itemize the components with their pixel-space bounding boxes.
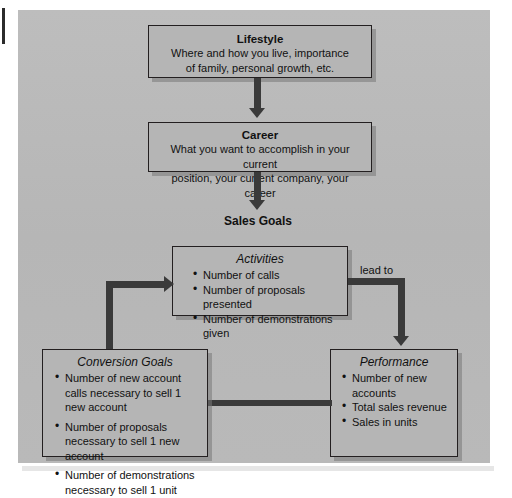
list-item: Number of demonstrations given	[193, 312, 341, 341]
edge-label-lead-to-text: lead to	[360, 264, 393, 276]
node-conversion-goals-list: Number of new account calls necessary to…	[49, 371, 201, 497]
arrowhead-to-activities	[164, 276, 174, 292]
connector-performance-conversion	[208, 400, 332, 406]
node-career-title: Career	[155, 128, 365, 142]
node-sales-goals: Sales Goals	[190, 214, 326, 228]
node-performance-title: Performance	[336, 355, 452, 369]
list-item: Total sales revenue	[342, 400, 452, 415]
connector-lifestyle-career	[254, 78, 261, 110]
node-lifestyle-line1: Where and how you live, importance	[157, 46, 363, 61]
list-item: Number of new accounts	[342, 371, 452, 400]
node-activities: Activities Number of calls Number of pro…	[172, 246, 348, 316]
node-activities-title: Activities	[179, 252, 341, 266]
diagram-canvas: Lifestyle Where and how you live, import…	[0, 0, 512, 498]
node-career: Career What you want to accomplish in yo…	[148, 122, 372, 172]
list-item: Number of proposals necessary to sell 1 …	[55, 420, 201, 464]
connector-career-salesgoals	[254, 172, 261, 202]
node-performance-list: Number of new accounts Total sales reven…	[336, 371, 452, 429]
node-lifestyle-line2: of family, personal growth, etc.	[157, 61, 363, 76]
scan-edge-artifact	[2, 8, 5, 44]
connector-activities-right	[348, 278, 405, 285]
node-conversion-goals: Conversion Goals Number of new account c…	[42, 349, 208, 457]
list-item: Number of new account calls necessary to…	[55, 371, 201, 415]
connector-conversion-up	[106, 288, 113, 349]
node-conversion-goals-title: Conversion Goals	[49, 355, 201, 369]
node-career-line1: What you want to accomplish in your curr…	[155, 142, 365, 171]
arrowhead-lifestyle-career	[249, 108, 265, 118]
edge-label-lead-to: lead to	[360, 264, 393, 276]
node-sales-goals-title: Sales Goals	[224, 214, 292, 228]
list-item: Number of proposals presented	[193, 283, 341, 312]
arrowhead-career-salesgoals	[249, 200, 265, 210]
list-item: Sales in units	[342, 415, 452, 430]
connector-conversion-right-to-activities	[106, 281, 166, 288]
node-lifestyle: Lifestyle Where and how you live, import…	[148, 25, 372, 78]
node-performance: Performance Number of new accounts Total…	[330, 349, 458, 457]
arrowhead-to-performance	[393, 336, 409, 346]
list-item: Number of demonstrations necessary to se…	[55, 468, 201, 497]
node-lifestyle-title: Lifestyle	[157, 32, 363, 46]
connector-down-to-performance	[398, 278, 405, 338]
node-activities-list: Number of calls Number of proposals pres…	[179, 268, 341, 341]
list-item: Number of calls	[193, 268, 341, 283]
